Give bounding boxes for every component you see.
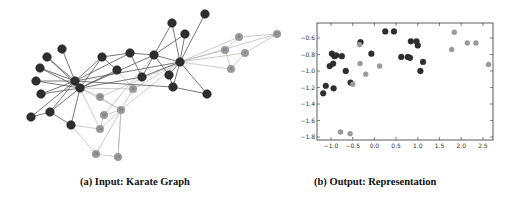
scatter-point-light [465, 40, 470, 45]
graph-edge [80, 88, 100, 129]
scatter-point-dark [323, 83, 329, 89]
graph-node-dark [36, 64, 45, 73]
scatter-point-dark [398, 54, 404, 60]
graph-edge [75, 62, 180, 81]
scatter-point-dark [408, 38, 414, 44]
graph-node-dark [76, 84, 85, 93]
karate-graph: 93033262826256117517 [0, 0, 300, 165]
graph-node-dark [165, 71, 174, 80]
graph-node-label: 26 [94, 152, 98, 156]
graph-node-dark [201, 10, 210, 19]
representation-scatter-plot: −1.0−0.50.00.51.01.52.02.5−0.6−0.8−1.0−1… [290, 0, 518, 165]
scatter-point-light [363, 72, 368, 77]
graph-node-label: 30 [98, 95, 102, 99]
scatter-point-dark [320, 90, 326, 96]
scatter-point-dark [368, 51, 374, 57]
graph-node-dark [168, 19, 177, 28]
graph-node-label: 33 [119, 108, 123, 112]
scatter-point-light [348, 131, 353, 136]
y-tick-label: −0.8 [300, 51, 315, 58]
graph-node-label: 28 [98, 127, 102, 131]
scatter-point-dark [415, 43, 421, 49]
scatter-points [320, 29, 491, 137]
scatter-point-light [338, 130, 343, 135]
scatter-point-dark [418, 68, 424, 74]
axis-ticks: −1.0−0.50.00.51.01.52.02.5−0.6−0.8−1.0−1… [300, 23, 493, 149]
x-tick-label: 1.5 [435, 142, 445, 149]
graph-node-dark [32, 77, 41, 86]
graph-node-dark [98, 53, 107, 62]
graph-node-label: 11 [223, 48, 227, 52]
x-tick-label: 2.0 [456, 142, 466, 149]
graph-node-dark [203, 90, 212, 99]
caption-input-karate-graph: (a) Input: Karate Graph [80, 176, 190, 187]
scatter-point-light [377, 64, 382, 69]
scatter-point-dark [420, 59, 426, 65]
graph-node-dark [169, 83, 178, 92]
graph-node-dark [176, 58, 185, 67]
graph-node-label: 7 [244, 51, 246, 55]
graph-edge [71, 125, 96, 154]
scatter-point-dark [339, 53, 345, 59]
x-tick-label: −0.5 [345, 142, 360, 149]
graph-edge [172, 23, 180, 62]
graph-node-dark [27, 113, 36, 122]
y-tick-label: −0.6 [300, 34, 315, 41]
graph-node-dark [181, 30, 190, 39]
graph-edge [118, 110, 121, 157]
graph-edge [154, 34, 185, 55]
x-tick-label: 1.0 [413, 142, 423, 149]
graph-node-dark [46, 108, 55, 117]
graph-node-dark [138, 73, 147, 82]
scatter-point-light [452, 30, 457, 35]
caption-output-representation: (b) Output: Representation [314, 176, 436, 187]
y-tick-label: −1.6 [300, 117, 315, 124]
y-tick-label: −1.4 [300, 100, 315, 107]
graph-node-dark [37, 90, 46, 99]
graph-edge [180, 62, 231, 69]
karate-graph-panel: 93033262826256117517 [0, 0, 300, 165]
scatter-point-light [358, 61, 363, 66]
scatter-point-light [486, 62, 491, 67]
graph-node-label: 25 [116, 155, 120, 159]
graph-node-dark [126, 49, 135, 58]
graph-node-label: 26 [102, 113, 106, 117]
x-tick-label: −1.0 [324, 142, 339, 149]
graph-edge [154, 23, 172, 55]
scatter-point-light [357, 42, 362, 47]
graph-edge [40, 68, 75, 81]
graph-node-dark [43, 53, 52, 62]
graph-node-label: 6 [238, 35, 240, 39]
graph-edge [71, 88, 80, 125]
y-tick-label: −1.8 [300, 133, 315, 140]
y-tick-label: −1.2 [300, 84, 315, 91]
y-tick-label: −1.0 [300, 67, 315, 74]
x-tick-label: 0.0 [370, 142, 380, 149]
graph-node-dark [58, 45, 67, 54]
graph-node-dark [67, 121, 76, 130]
graph-node-label: 9 [132, 87, 134, 91]
scatter-point-light [449, 47, 454, 52]
scatter-point-light [350, 82, 355, 87]
scatter-point-dark [382, 29, 388, 35]
graph-node-dark [150, 51, 159, 60]
graph-edge [80, 88, 133, 89]
representation-scatter-panel: −1.0−0.50.00.51.01.52.02.5−0.6−0.8−1.0−1… [290, 0, 518, 165]
scatter-point-dark [331, 85, 337, 91]
scatter-point-dark [333, 52, 339, 58]
scatter-point-dark [330, 61, 336, 67]
graph-node-dark [113, 66, 122, 75]
graph-edge [62, 49, 75, 81]
graph-node-label: 17 [275, 32, 279, 36]
scatter-point-dark [343, 68, 349, 74]
graph-edge [245, 34, 277, 53]
x-tick-label: 2.5 [478, 142, 488, 149]
scatter-point-dark [407, 55, 413, 61]
scatter-point-dark [391, 29, 397, 35]
scatter-point-light [473, 40, 478, 45]
graph-node-label: 5 [230, 67, 232, 71]
x-tick-label: 0.5 [391, 142, 401, 149]
